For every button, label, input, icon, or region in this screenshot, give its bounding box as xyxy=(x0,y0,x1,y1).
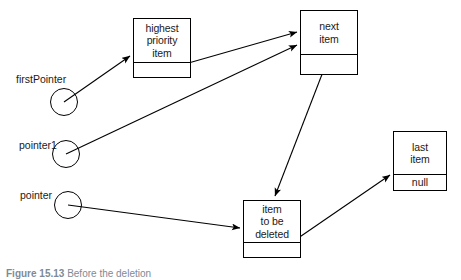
node-highest-priority-item-data: highest priority item xyxy=(134,19,190,62)
node-item-to-be-deleted-link xyxy=(244,242,300,257)
node-item-to-be-deleted-data: item to be deleted xyxy=(244,201,300,242)
pointer-circle-pointer xyxy=(54,191,82,219)
figure-caption: Figure 15.13 Before the deletion xyxy=(6,268,151,279)
arrow-pointer-to-deleted xyxy=(68,205,240,228)
pointer-label-pointer: pointer xyxy=(20,190,52,201)
figure-container: highest priority item next item last ite… xyxy=(0,0,461,280)
node-last-item: last item null xyxy=(393,131,447,191)
node-next-item: next item xyxy=(300,10,358,75)
node-last-item-link: null xyxy=(394,174,446,190)
figure-caption-text: Before the deletion xyxy=(67,268,151,279)
figure-caption-label: Figure 15.13 xyxy=(6,268,64,279)
arrow-next-to-deleted xyxy=(275,64,326,196)
node-highest-priority-item: highest priority item xyxy=(133,18,191,78)
pointer-label-firstpointer: firstPointer xyxy=(16,74,66,85)
node-highest-priority-item-link xyxy=(134,62,190,77)
node-last-item-data: last item xyxy=(394,132,446,174)
pointer-circle-firstpointer xyxy=(50,88,78,116)
node-item-to-be-deleted: item to be deleted xyxy=(243,200,301,258)
pointer-label-pointer1: pointer1 xyxy=(19,140,57,151)
node-next-item-link xyxy=(301,54,357,74)
node-next-item-data: next item xyxy=(301,11,357,54)
